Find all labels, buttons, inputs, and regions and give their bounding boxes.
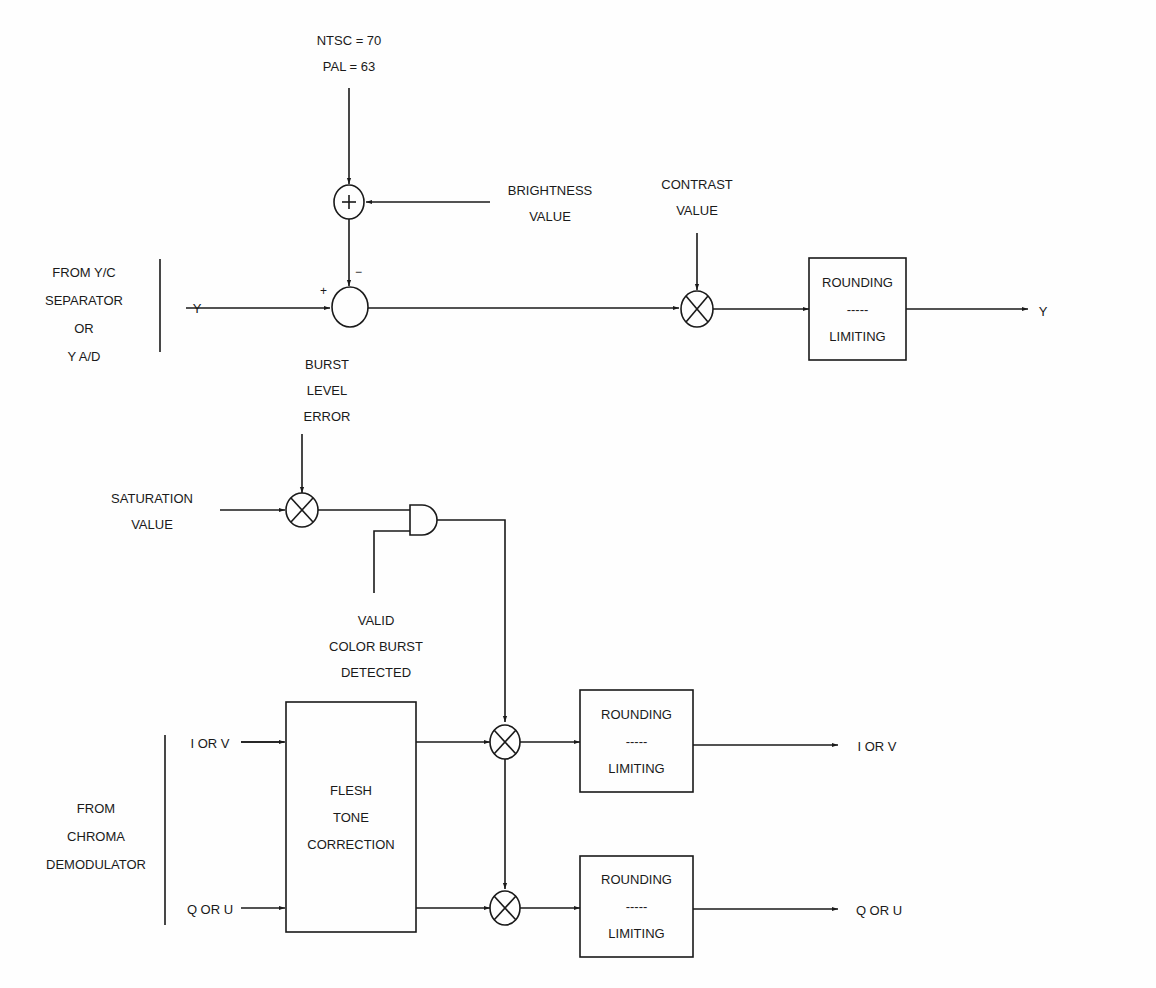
y-rounding-text: ROUNDING-----LIMITING [809, 258, 906, 360]
chroma-source-label: FROMCHROMADEMODULATOR [46, 795, 146, 879]
plus-sign: + [320, 284, 327, 298]
contrast-label: CONTRASTVALUE [661, 172, 733, 224]
i-rounding-text: ROUNDING-----LIMITING [580, 690, 693, 792]
saturation-label: SATURATIONVALUE [111, 486, 193, 538]
ntsc-pal-label: NTSC = 70PAL = 63 [317, 28, 382, 80]
y-input-label: Y [193, 296, 202, 322]
video-processing-block-diagram: NTSC = 70PAL = 63 BRIGHTNESSVALUE CONTRA… [0, 0, 1156, 988]
burst-level-label: BURSTLEVELERROR [304, 352, 351, 430]
q-output-label: Q OR U [856, 898, 902, 924]
q-input-label: Q OR U [187, 897, 233, 923]
flesh-tone-text: FLESHTONECORRECTION [286, 702, 416, 932]
valid-burst-label: VALIDCOLOR BURSTDETECTED [329, 608, 423, 686]
minus-sign: − [355, 265, 362, 279]
i-output-label: I OR V [857, 734, 896, 760]
y-source-label: FROM Y/CSEPARATORORY A/D [45, 259, 123, 371]
y-output-label: Y [1039, 299, 1048, 325]
and-gate [410, 505, 437, 535]
q-rounding-text: ROUNDING-----LIMITING [580, 856, 693, 957]
i-input-label: I OR V [190, 731, 229, 757]
y-subtractor [332, 287, 368, 327]
brightness-label: BRIGHTNESSVALUE [508, 178, 593, 230]
